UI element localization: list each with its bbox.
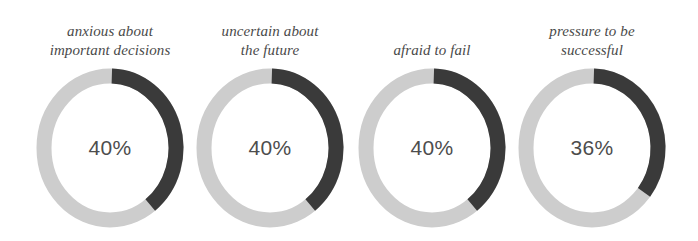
- donut-ring-2-svg: [192, 64, 348, 232]
- donut-label-4-line-1: pressure to be: [549, 22, 634, 41]
- donut-label-3: afraid to fail: [345, 8, 519, 60]
- donut-group-3: afraid to fail 40%: [345, 0, 519, 241]
- donut-label-2-line-2: the future: [241, 41, 299, 60]
- donut-label-4: pressure to be successful: [505, 8, 679, 60]
- donut-chart-infographic: anxious about important decisions 40% un…: [0, 0, 698, 241]
- donut-group-2: uncertain about the future 40%: [183, 0, 357, 241]
- donut-ring-3: [354, 64, 510, 232]
- donut-ring-4-fill: [594, 76, 658, 192]
- donut-label-1-line-1: anxious about: [67, 22, 153, 41]
- donut-group-1: anxious about important decisions 40%: [23, 0, 197, 241]
- donut-label-4-line-2: successful: [561, 41, 623, 60]
- donut-ring-4-svg: [514, 64, 670, 232]
- donut-ring-1: [32, 64, 188, 232]
- donut-ring-1-fill: [112, 76, 176, 205]
- donut-ring-3-fill: [434, 76, 498, 205]
- donut-group-4: pressure to be successful 36%: [505, 0, 679, 241]
- donut-ring-2: [192, 64, 348, 232]
- donut-label-2: uncertain about the future: [183, 8, 357, 60]
- donut-label-1: anxious about important decisions: [23, 8, 197, 60]
- donut-ring-1-svg: [32, 64, 188, 232]
- donut-ring-3-svg: [354, 64, 510, 232]
- donut-label-3-line-1: afraid to fail: [393, 41, 470, 60]
- donut-label-1-line-2: important decisions: [50, 41, 171, 60]
- donut-ring-2-fill: [272, 76, 336, 205]
- donut-ring-4: [514, 64, 670, 232]
- donut-label-2-line-1: uncertain about: [222, 22, 319, 41]
